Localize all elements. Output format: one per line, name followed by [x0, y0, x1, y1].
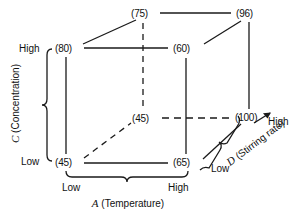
node-front-bottom-left: (45)	[55, 157, 72, 168]
a-axis-title: A (Temperature)	[88, 198, 168, 209]
factorial-cube-figure: (75) (96) (80) (60) (45) (100) (45) (65)…	[0, 0, 302, 214]
edge-depth-top-left	[83, 20, 136, 44]
cube-wireframe	[0, 0, 302, 214]
a-axis-brace	[66, 171, 188, 182]
c-axis-symbol: C	[9, 136, 21, 143]
node-back-top-right: (96)	[236, 8, 253, 19]
node-front-bottom-right: (65)	[173, 157, 190, 168]
node-back-top-left: (75)	[131, 8, 148, 19]
a-axis-low-label: Low	[62, 182, 80, 193]
a-axis-high-label: High	[168, 182, 189, 193]
node-back-bottom-left: (45)	[132, 113, 149, 124]
edge-depth-top-right	[204, 21, 241, 44]
a-axis-name: (Temperature)	[101, 198, 164, 209]
node-front-top-right: (60)	[173, 43, 190, 54]
d-axis-low-label: Low	[211, 163, 229, 174]
c-axis-low-label: Low	[21, 156, 39, 167]
c-axis-high-label: High	[19, 43, 40, 54]
node-back-bottom-right: (100)	[235, 112, 257, 123]
c-axis-brace	[42, 49, 52, 161]
a-axis-symbol: A	[92, 197, 99, 209]
node-front-top-left: (80)	[55, 43, 72, 54]
c-axis-title: C (Concentration)	[10, 44, 21, 164]
edge-depth-bottom-left-hidden	[84, 123, 131, 158]
c-axis-name: (Concentration)	[10, 64, 21, 133]
